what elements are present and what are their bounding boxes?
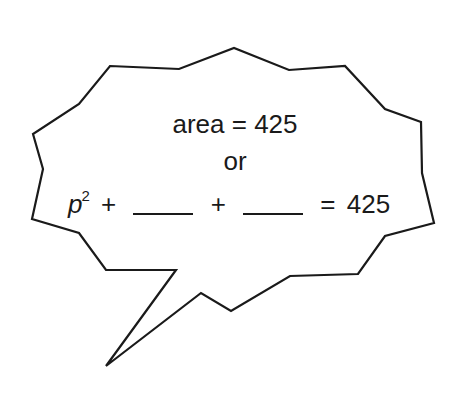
or-connector: or: [0, 148, 462, 174]
area-equation: area = 425: [0, 111, 462, 137]
result-value: 425: [347, 189, 390, 219]
blank-term-1[interactable]: [133, 191, 193, 215]
plus-sign-1: +: [101, 189, 116, 219]
expanded-equation: p2 + + = 425: [68, 189, 390, 217]
exponent: 2: [81, 187, 89, 204]
equals-sign: =: [320, 189, 335, 219]
blank-term-2[interactable]: [243, 191, 303, 215]
plus-sign-2: +: [211, 189, 226, 219]
